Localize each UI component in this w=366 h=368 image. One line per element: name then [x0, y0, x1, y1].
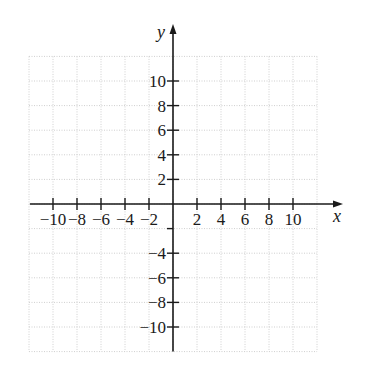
x-tick-label: 10 — [285, 210, 302, 229]
y-axis-arrow-icon — [170, 24, 177, 34]
y-tick-label: 6 — [158, 121, 167, 140]
x-tick-label: −2 — [140, 210, 158, 229]
x-tick-label: 6 — [241, 210, 250, 229]
y-tick-label: −6 — [148, 269, 166, 288]
y-tick-label: −8 — [148, 293, 166, 312]
x-tick-label: −4 — [116, 210, 135, 229]
y-axis-label: y — [155, 22, 165, 42]
y-tick-label: 8 — [158, 97, 167, 116]
x-tick-label: 8 — [265, 210, 274, 229]
y-tick-label: −10 — [139, 318, 166, 337]
x-tick-label: 2 — [193, 210, 202, 229]
x-axis-label: x — [332, 206, 341, 226]
x-tick-label: −10 — [40, 210, 67, 229]
y-tick-label: 4 — [158, 146, 167, 165]
y-tick-label: 10 — [149, 72, 166, 91]
x-tick-label: 4 — [217, 210, 226, 229]
coordinate-plane: −10−8−6−4−2246810108642−4−6−8−10 x y — [0, 0, 366, 368]
x-tick-label: −8 — [68, 210, 86, 229]
x-tick-label: −6 — [92, 210, 110, 229]
y-tick-label: −4 — [148, 244, 167, 263]
y-tick-label: 2 — [158, 170, 167, 189]
